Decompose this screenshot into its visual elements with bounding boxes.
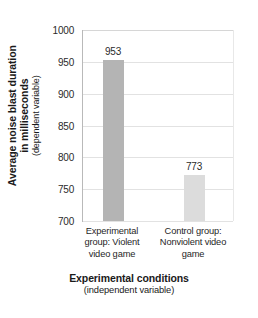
category-label-line: game <box>154 249 232 260</box>
y-tick-label: 850 <box>40 120 74 131</box>
x-axis-title-subtitle: (independent variable) <box>0 285 258 296</box>
bar-chart-figure: Average noise blast duration in millisec… <box>0 0 258 318</box>
bar-experimental: 953 <box>103 60 124 221</box>
category-label-line: group: Violent <box>73 237 151 248</box>
bar-control: 773 <box>184 175 205 221</box>
y-axis-tick-labels: 1000950900850800750700 <box>44 30 78 221</box>
bar-value-label: 953 <box>105 46 121 57</box>
gridline <box>83 221 233 222</box>
plot-area: 953773 <box>82 30 233 222</box>
y-tick-label: 800 <box>40 152 74 163</box>
category-label-experimental: Experimentalgroup: Violentvideo game <box>73 226 151 260</box>
category-label-line: Nonviolent video <box>154 237 232 248</box>
category-label-line: Experimental <box>73 226 151 237</box>
y-axis-title-line1: Average noise blast duration <box>5 46 17 187</box>
category-label-control: Control group:Nonviolent videogame <box>154 226 232 260</box>
x-axis-title: Experimental conditions (independent var… <box>0 272 258 296</box>
y-tick-label: 900 <box>40 88 74 99</box>
gridline <box>83 30 233 31</box>
y-tick-label: 750 <box>40 184 74 195</box>
y-tick-label: 700 <box>40 216 74 227</box>
bar-value-label: 773 <box>186 161 202 172</box>
x-axis-title-main: Experimental conditions <box>0 272 258 285</box>
plot-right-border <box>233 30 234 221</box>
y-axis-title-rotated: Average noise blast duration in millisec… <box>5 46 40 187</box>
category-label-line: Control group: <box>154 226 232 237</box>
y-tick-label: 950 <box>40 56 74 67</box>
y-tick-label: 1000 <box>40 25 74 36</box>
y-axis-title-line2: in milliseconds <box>18 46 30 187</box>
category-label-line: video game <box>73 249 151 260</box>
